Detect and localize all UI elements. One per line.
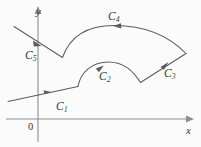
x-axis <box>6 116 194 123</box>
curve-label-c3-sub: 3 <box>172 73 176 81</box>
y-axis-label: y <box>36 6 41 17</box>
x-axis-label: x <box>186 125 191 136</box>
curve-label-c5-letter: C <box>25 49 33 61</box>
curve-label-c1: C1 <box>56 101 67 113</box>
curve-label-c3: C3 <box>164 68 175 80</box>
curve-label-c3-letter: C <box>164 67 172 79</box>
curve-label-c2: C2 <box>99 71 110 83</box>
curve-label-c4: C4 <box>108 11 119 23</box>
curve-label-c4-letter: C <box>108 10 116 22</box>
curve-label-c4-sub: 4 <box>116 16 120 24</box>
curve-figure: C5 C1 C2 C3 C4 y x 0 <box>0 0 201 147</box>
curve-label-c2-sub: 2 <box>107 76 111 84</box>
curve-label-c2-letter: C <box>99 70 107 82</box>
origin-label: 0 <box>28 122 33 133</box>
y-axis <box>35 6 42 142</box>
curve-c1 <box>8 87 78 102</box>
curve-c4 <box>63 23 187 57</box>
curve-label-c5-sub: 5 <box>33 55 37 63</box>
curve-label-c5: C5 <box>25 50 36 62</box>
curve-label-c1-letter: C <box>56 100 64 112</box>
curve-label-c1-sub: 1 <box>64 106 68 114</box>
